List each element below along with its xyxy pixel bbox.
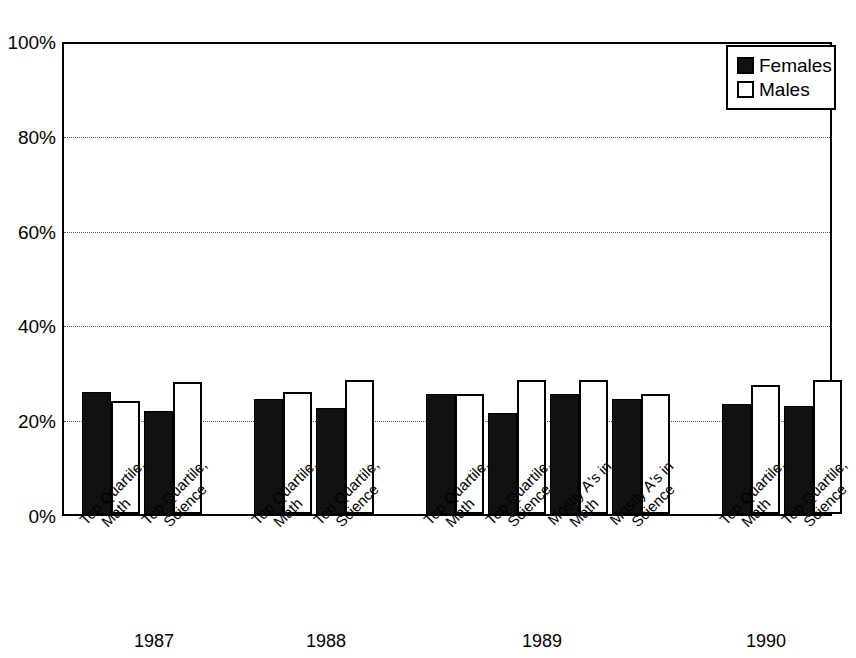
legend-swatch-males-icon	[737, 81, 754, 98]
y-tick-label: 80%	[0, 128, 56, 147]
bar-chart: 0%20%40%60%80%100% Top Quartile,MathTop …	[0, 0, 856, 658]
y-tick-label: 20%	[0, 412, 56, 431]
legend-swatch-females-icon	[737, 57, 754, 74]
x-group-label: 1990	[746, 632, 786, 650]
legend: Females Males	[726, 45, 836, 110]
legend-item-females: Females	[737, 53, 824, 77]
y-tick-label: 60%	[0, 223, 56, 242]
y-tick-label: 100%	[0, 33, 56, 52]
legend-item-males: Males	[737, 77, 824, 101]
x-axis-labels: Top Quartile,MathTop Quartile,ScienceTop…	[0, 516, 856, 658]
x-group-label: 1987	[134, 632, 174, 650]
x-group-label: 1988	[306, 632, 346, 650]
y-tick-label: 40%	[0, 317, 56, 336]
x-group-label: 1989	[522, 632, 562, 650]
legend-label-females: Females	[759, 56, 832, 75]
legend-label-males: Males	[759, 80, 810, 99]
y-axis: 0%20%40%60%80%100%	[0, 42, 56, 516]
bars-layer	[64, 44, 830, 514]
